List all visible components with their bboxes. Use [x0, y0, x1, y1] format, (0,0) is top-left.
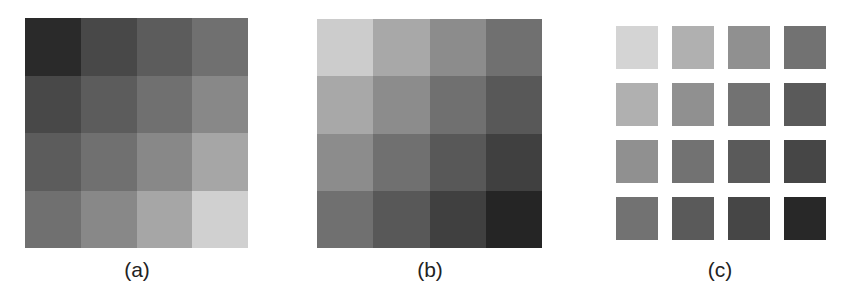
grayscale-grid-a: [25, 18, 248, 248]
gray-cell: [430, 76, 486, 133]
gray-cell: [430, 191, 486, 248]
gray-cell: [317, 191, 373, 248]
gray-cell: [672, 140, 714, 183]
gray-cell: [81, 18, 137, 76]
gray-cell: [317, 19, 373, 76]
gray-cell: [784, 83, 826, 126]
gray-cell: [192, 133, 248, 191]
gray-cell: [486, 19, 542, 76]
gray-cell: [430, 19, 486, 76]
caption-b: (b): [400, 258, 460, 282]
gray-cell: [373, 134, 429, 191]
gray-cell: [486, 134, 542, 191]
gray-cell: [373, 191, 429, 248]
gray-cell: [317, 76, 373, 133]
gray-cell: [192, 76, 248, 134]
gray-cell: [728, 26, 770, 69]
gray-cell: [616, 197, 658, 240]
gray-cell: [430, 134, 486, 191]
gray-cell: [25, 191, 81, 249]
gray-cell: [25, 133, 81, 191]
gray-cell: [784, 140, 826, 183]
gray-cell: [373, 19, 429, 76]
gray-cell: [672, 26, 714, 69]
gray-cell: [192, 191, 248, 249]
gray-cell: [784, 197, 826, 240]
gray-cell: [81, 191, 137, 249]
caption-c: (c): [690, 258, 750, 282]
gray-cell: [25, 76, 81, 134]
caption-a: (a): [107, 258, 167, 282]
gray-cell: [728, 140, 770, 183]
gray-cell: [616, 26, 658, 69]
gray-cell: [616, 140, 658, 183]
gray-cell: [672, 197, 714, 240]
gray-cell: [486, 191, 542, 248]
gray-cell: [317, 134, 373, 191]
gray-cell: [192, 18, 248, 76]
gray-cell: [81, 133, 137, 191]
gray-cell: [137, 133, 193, 191]
gray-cell: [81, 76, 137, 134]
gray-cell: [672, 83, 714, 126]
gray-cell: [137, 191, 193, 249]
gray-cell: [25, 18, 81, 76]
gray-cell: [616, 83, 658, 126]
gray-cell: [728, 197, 770, 240]
gray-cell: [137, 18, 193, 76]
gray-cell: [486, 76, 542, 133]
grayscale-grid-b: [317, 19, 542, 248]
grayscale-grid-c: [616, 26, 826, 240]
gray-cell: [373, 76, 429, 133]
gray-cell: [137, 76, 193, 134]
gray-cell: [784, 26, 826, 69]
gray-cell: [728, 83, 770, 126]
